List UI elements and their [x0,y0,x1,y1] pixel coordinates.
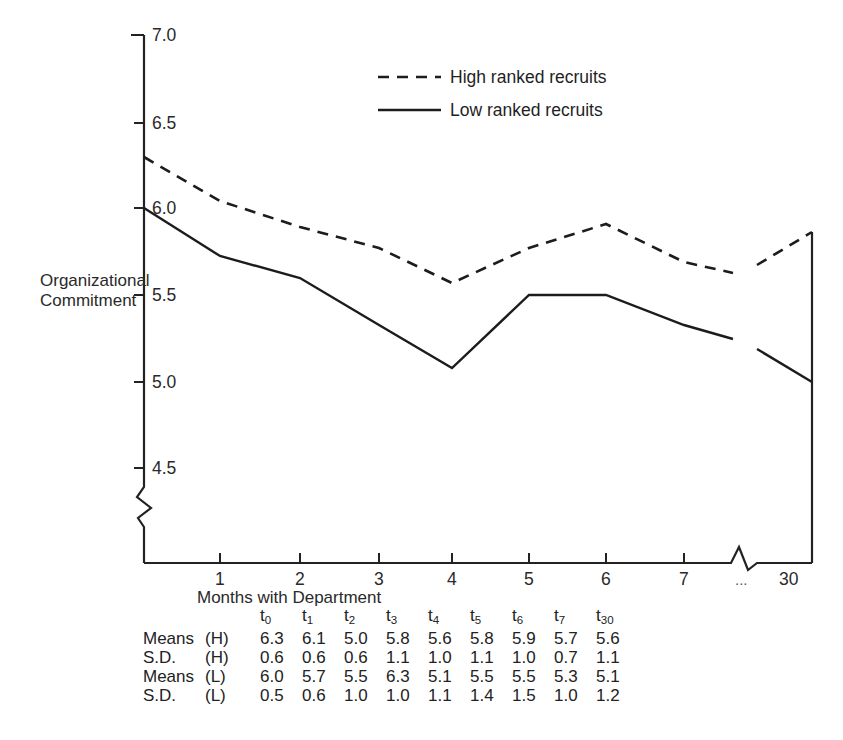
x-axis-ticks [220,553,684,563]
cell-sd-l-t3: 1.0 [386,686,428,705]
cell-sd-l-t5: 1.4 [470,686,512,705]
table-header-t0: t0 [260,604,302,629]
table-row: Means (H) 6.3 6.1 5.0 5.8 5.6 5.8 5.9 5.… [143,629,638,648]
x-axis-line [144,547,812,570]
data-summary-table: t0 t1 t2 t3 t4 t5 t6 t7 t30 Means (H) 6.… [143,604,638,705]
row-label-means-h: Means [143,629,205,648]
table-header-row: t0 t1 t2 t3 t4 t5 t6 t7 t30 [143,604,638,629]
cell-means-h-t3: 5.8 [386,629,428,648]
x-tick-label-7: 7 [679,569,689,590]
cell-sd-l-t30: 1.2 [596,686,638,705]
cell-sd-l-t7: 1.0 [554,686,596,705]
x-tick-label-3: 3 [374,569,384,590]
cell-means-h-t5: 5.8 [470,629,512,648]
cell-means-l-t6: 5.5 [512,667,554,686]
series-low-ranked-recruits [144,208,733,368]
series-low-ranked-recruits-tail [757,349,812,382]
cell-means-h-t2: 5.0 [344,629,386,648]
x-tick-label-30: 30 [779,569,798,590]
cell-means-l-t4: 5.1 [428,667,470,686]
table-header-t2: t2 [344,604,386,629]
row-label-means-l: Means [143,667,205,686]
cell-means-h-t0: 6.3 [260,629,302,648]
cell-sd-h-t3: 1.1 [386,648,428,667]
cell-means-l-t0: 6.0 [260,667,302,686]
figure-caption [6,726,836,739]
cell-sd-h-t6: 1.0 [512,648,554,667]
cell-sd-h-t2: 0.6 [344,648,386,667]
table-row: S.D. (L) 0.5 0.6 1.0 1.0 1.1 1.4 1.5 1.0… [143,686,638,705]
cell-sd-h-t5: 1.1 [470,648,512,667]
cell-means-l-t3: 6.3 [386,667,428,686]
cell-sd-l-t1: 0.6 [302,686,344,705]
series-high-ranked-recruits-tail [757,232,812,265]
legend-label-low-ranked-recruits: Low ranked recruits [450,100,603,121]
table-header-blank-name [143,604,205,629]
cell-means-h-t1: 6.1 [302,629,344,648]
cell-means-h-t7: 5.7 [554,629,596,648]
cell-means-h-t30: 5.6 [596,629,638,648]
cell-means-l-t5: 5.5 [470,667,512,686]
series-high-ranked-recruits [144,157,733,283]
y-tick-label-5-0: 5.0 [152,372,176,393]
table-header-t7: t7 [554,604,596,629]
x-tick-label-4: 4 [447,569,457,590]
table-header-t3: t3 [386,604,428,629]
row-group-sd-h: (H) [205,648,260,667]
row-label-sd-l: S.D. [143,686,205,705]
y-tick-label-7-0: 7.0 [152,25,176,46]
row-group-sd-l: (L) [205,686,260,705]
row-group-means-h: (H) [205,629,260,648]
cell-sd-h-t4: 1.0 [428,648,470,667]
x-axis-break-ellipsis: ... [735,571,748,588]
x-tick-label-5: 5 [524,569,534,590]
cell-sd-l-t4: 1.1 [428,686,470,705]
y-tick-label-4-5: 4.5 [152,458,176,479]
cell-means-h-t6: 5.9 [512,629,554,648]
x-tick-label-6: 6 [601,569,611,590]
table-header-t30: t30 [596,604,638,629]
y-axis-title-line1: Organizational [40,271,150,291]
row-label-sd-h: S.D. [143,648,205,667]
table-header-t4: t4 [428,604,470,629]
cell-sd-h-t7: 0.7 [554,648,596,667]
cell-means-l-t1: 5.7 [302,667,344,686]
table-header-t6: t6 [512,604,554,629]
cell-sd-h-t1: 0.6 [302,648,344,667]
y-tick-label-5-5: 5.5 [152,285,176,306]
table-header-blank-group [205,604,260,629]
cell-means-h-t4: 5.6 [428,629,470,648]
cell-sd-l-t6: 1.5 [512,686,554,705]
cell-means-l-t7: 5.3 [554,667,596,686]
x-tick-label-1: 1 [215,569,225,590]
cell-sd-h-t30: 1.1 [596,648,638,667]
legend-label-high-ranked-recruits: High ranked recruits [450,67,607,88]
cell-sd-l-t2: 1.0 [344,686,386,705]
table-row: S.D. (H) 0.6 0.6 0.6 1.1 1.0 1.1 1.0 0.7… [143,648,638,667]
cell-sd-l-t0: 0.5 [260,686,302,705]
x-tick-label-2: 2 [295,569,305,590]
y-tick-label-6-5: 6.5 [152,113,176,134]
table-header-t5: t5 [470,604,512,629]
cell-means-l-t2: 5.5 [344,667,386,686]
figure-organizational-commitment: 7.0 6.5 6.0 5.5 5.0 4.5 Organizational C… [0,0,843,740]
row-group-means-l: (L) [205,667,260,686]
y-tick-label-6-0: 6.0 [152,198,176,219]
table-row: Means (L) 6.0 5.7 5.5 6.3 5.1 5.5 5.5 5.… [143,667,638,686]
y-axis-title-line2: Commitment [40,291,136,311]
table-header-t1: t1 [302,604,344,629]
cell-means-l-t30: 5.1 [596,667,638,686]
cell-sd-h-t0: 0.6 [260,648,302,667]
